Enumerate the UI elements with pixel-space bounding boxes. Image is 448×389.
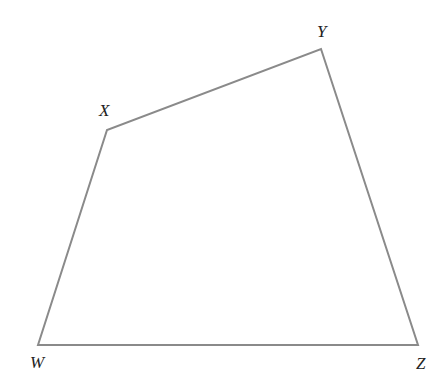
- vertex-label-x: X: [98, 101, 110, 120]
- vertex-label-y: Y: [317, 22, 328, 41]
- diagram-canvas: W X Y Z: [0, 0, 448, 389]
- vertex-label-z: Z: [416, 354, 426, 373]
- quadrilateral-figure: W X Y Z: [0, 0, 448, 389]
- vertex-label-w: W: [30, 353, 46, 372]
- quadrilateral-wxyz: [38, 49, 418, 345]
